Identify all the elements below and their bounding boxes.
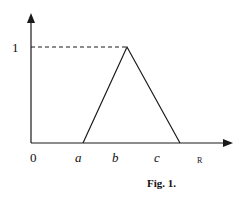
x-label-c: c [154, 150, 160, 165]
triangular-membership-diagram: 1 0 a b c R Fig. 1. [0, 0, 251, 204]
y-axis-arrow-icon [27, 13, 35, 23]
x-axis-arrow-icon [223, 139, 233, 147]
triangle-membership-curve [83, 47, 180, 143]
x-axis-label-r: R [197, 156, 203, 165]
x-label-a: a [75, 150, 82, 165]
figure-caption: Fig. 1. [147, 177, 176, 189]
origin-label: 0 [30, 150, 37, 165]
y-tick-one: 1 [12, 40, 19, 55]
x-label-b: b [112, 150, 119, 165]
